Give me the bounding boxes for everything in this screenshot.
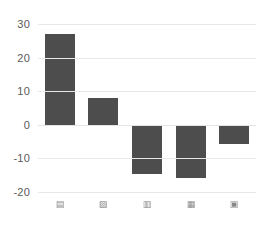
gridline xyxy=(38,91,256,92)
plot-area xyxy=(38,24,256,192)
category-glyph-icon: ▥ xyxy=(143,200,152,209)
gridline xyxy=(38,125,256,126)
x-axis-tick-label: ▦ xyxy=(171,200,211,209)
x-axis-tick-label: ▨ xyxy=(83,200,123,209)
category-glyph-icon: ▣ xyxy=(230,200,239,209)
bar[interactable] xyxy=(176,125,206,178)
bars-layer xyxy=(38,24,256,192)
y-axis-tick-label: -10 xyxy=(0,153,30,164)
category-glyph-icon: ▤ xyxy=(56,200,65,209)
bar[interactable] xyxy=(132,125,162,174)
bar[interactable] xyxy=(219,125,249,144)
y-axis-tick-label: 20 xyxy=(0,53,30,64)
y-axis-tick-label: 10 xyxy=(0,86,30,97)
gridline xyxy=(38,192,256,193)
x-axis-tick-label: ▣ xyxy=(214,200,254,209)
gridline xyxy=(38,58,256,59)
y-axis-tick-label: 0 xyxy=(0,120,30,131)
category-glyph-icon: ▦ xyxy=(187,200,196,209)
bar[interactable] xyxy=(45,34,75,125)
y-axis-tick-label: -20 xyxy=(0,187,30,198)
y-axis-tick-label: 30 xyxy=(0,19,30,30)
bar-chart-figure: 3020100-10-20 ▤▨▥▦▣ xyxy=(0,0,269,234)
gridline xyxy=(38,158,256,159)
category-glyph-icon: ▨ xyxy=(99,200,108,209)
gridline xyxy=(38,24,256,25)
x-axis-tick-label: ▥ xyxy=(127,200,167,209)
bar[interactable] xyxy=(88,98,118,125)
x-axis-tick-label: ▤ xyxy=(40,200,80,209)
